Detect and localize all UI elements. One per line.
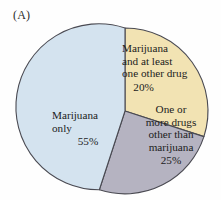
pie-label-line: marijuana	[149, 141, 194, 153]
pie-label-line: one other drug	[122, 67, 187, 79]
pie-label-marijuana-only: Marijuana only 55%	[52, 109, 124, 148]
figure-panel-a: (A) Marijuana and at least one other dru…	[0, 0, 221, 200]
pie-value-marijuana-only: 55%	[52, 134, 124, 148]
pie-label-line: One or	[156, 103, 187, 115]
pie-label-line: other than	[148, 128, 193, 140]
pie-value-other-drugs-not-marijuana: 25%	[140, 153, 202, 167]
pie-value-marijuana-and-other-drug: 20%	[122, 80, 187, 94]
pie-label-line: more drugs	[146, 116, 197, 128]
pie-label-other-drugs-not-marijuana: One or more drugs other than marijuana 2…	[140, 103, 202, 167]
pie-label-marijuana-and-other-drug: Marijuana and at least one other drug 20…	[122, 42, 187, 93]
pie-label-line: Marijuana	[52, 109, 98, 121]
pie-label-line: only	[52, 122, 72, 134]
pie-chart	[0, 0, 221, 200]
pie-label-line: Marijuana	[122, 42, 168, 54]
pie-label-line: and at least	[122, 55, 172, 67]
